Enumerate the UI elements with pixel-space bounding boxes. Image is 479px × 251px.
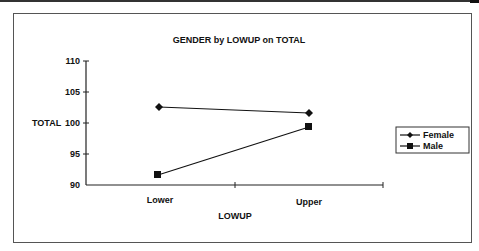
legend-label-male: Male [423,141,443,151]
y-tick-label: 95 [70,149,80,159]
chart-title: GENDER by LOWUP on TOTAL [173,35,306,45]
square-marker-icon [154,171,161,178]
square-marker-icon [407,143,413,149]
legend-label-female: Female [423,130,454,140]
diamond-marker-icon [305,109,313,117]
legend: Female Male [396,127,469,153]
y-tick-label: 105 [65,87,80,97]
series-female [155,103,313,117]
x-tick-label: Lower [147,195,174,205]
x-axis-label: LOWUP [218,211,252,221]
y-tick-label: 100 [65,118,80,128]
x-tick-label: Upper [296,197,323,207]
square-marker-icon [305,123,312,130]
series-male [154,123,312,178]
diamond-marker-icon [155,103,163,111]
y-tick-label: 90 [70,180,80,190]
chart-svg: GENDER by LOWUP on TOTAL 110 105 100 95 … [0,0,479,251]
y-axis-label: TOTAL [32,118,62,128]
y-tick-label: 110 [65,56,80,66]
